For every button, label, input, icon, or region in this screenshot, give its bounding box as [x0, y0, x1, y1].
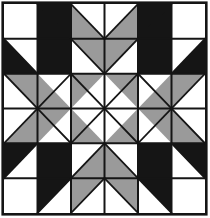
quilt-block-svg — [0, 0, 210, 218]
quilt-block-figure — [0, 0, 210, 218]
patch-black-br-block-square — [138, 143, 172, 178]
patch-black-tr-block-square — [138, 39, 172, 74]
patch-black-tl-block-square — [38, 39, 72, 74]
patch-black-bl-block-square — [38, 143, 72, 178]
